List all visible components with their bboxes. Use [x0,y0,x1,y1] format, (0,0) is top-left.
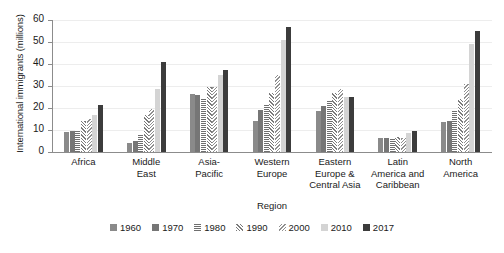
bar-1980 [390,138,395,152]
legend-swatch-icon [194,224,201,231]
legend-item-2017[interactable]: 2017 [363,222,394,233]
bar-group [127,20,166,152]
bar-group [64,20,103,152]
bar-1970 [321,106,326,152]
bar-1990 [207,87,212,152]
bar-1990 [332,93,337,152]
bar-2017 [412,131,417,152]
bar-2000 [338,89,343,152]
bar-1960 [127,143,132,152]
legend-swatch-icon [152,224,159,231]
x-tick-label: Eastern Europe & Central Asia [302,156,368,191]
legend-label: 1960 [120,222,141,233]
legend-swatch-icon [279,224,286,231]
bar-group [378,20,417,152]
bar-1980 [452,111,457,152]
bar-group [316,20,355,152]
y-axis-line [52,20,53,153]
bar-2017 [475,31,480,152]
bar-1990 [81,121,86,152]
bar-2010 [281,40,286,152]
bar-group [190,20,229,152]
x-tick-label: Asia- Pacific [180,156,238,179]
bar-1980 [201,98,206,152]
bar-1960 [441,122,446,152]
y-tick-label: 50 [8,35,44,46]
y-tick-label: 0 [8,145,44,156]
bar-2000 [149,109,154,152]
bar-2017 [286,27,291,152]
y-tick-label: 40 [8,57,44,68]
bar-1970 [70,131,75,152]
bar-1970 [195,95,200,152]
bar-2000 [212,87,217,152]
legend-swatch-icon [110,224,117,231]
bar-group [441,20,480,152]
legend-item-1970[interactable]: 1970 [152,222,183,233]
x-tick-label-group: AfricaMiddle EastAsia- PacificWestern Eu… [52,156,492,200]
legend-label: 1990 [246,222,267,233]
bar-1990 [269,93,274,152]
bar-2010 [92,115,97,152]
legend-label: 1970 [162,222,183,233]
x-tick-label: Latin America and Caribbean [365,156,431,191]
bar-2010 [218,75,223,152]
legend-swatch-icon [236,224,243,231]
bar-2017 [223,70,228,153]
legend-swatch-icon [363,224,370,231]
legend-label: 2000 [289,222,310,233]
legend-item-2010[interactable]: 2010 [321,222,352,233]
bar-1960 [316,111,321,152]
bar-1970 [258,110,263,152]
legend-label: 2017 [373,222,394,233]
bar-1980 [327,101,332,152]
x-axis-title: Region [52,200,492,211]
bar-1960 [253,121,258,152]
y-tick-label: 20 [8,101,44,112]
bar-1970 [133,141,138,152]
y-tick-label: 60 [8,13,44,24]
legend-label: 2010 [331,222,352,233]
y-tick-label: 10 [8,123,44,134]
bar-1990 [458,99,463,152]
bar-1990 [144,115,149,152]
bar-2010 [406,133,411,152]
legend-item-1990[interactable]: 1990 [236,222,267,233]
bar-2000 [275,75,280,152]
bar-1970 [447,121,452,152]
x-tick-label: North America [432,156,490,179]
bar-1990 [395,137,400,152]
x-axis-line [52,152,492,153]
x-tick-label: Western Europe [243,156,301,179]
bar-1960 [378,138,383,152]
bar-1970 [384,138,389,152]
bar-2017 [98,105,103,152]
bar-2010 [469,44,474,152]
bar-1960 [64,132,69,152]
bar-group [253,20,292,152]
legend-item-2000[interactable]: 2000 [279,222,310,233]
plot-area: 0102030405060 [52,20,492,152]
bar-2017 [349,97,354,152]
bar-2000 [464,84,469,152]
bar-1980 [75,130,80,152]
bar-2017 [161,62,166,152]
chart-legend: 1960197019801990200020102017 [0,222,504,233]
bar-1960 [190,94,195,152]
bar-2000 [87,119,92,152]
bar-1980 [264,104,269,152]
x-tick-label: Middle East [117,156,175,179]
x-tick-label: Africa [54,156,112,168]
legend-item-1960[interactable]: 1960 [110,222,141,233]
legend-label: 1980 [204,222,225,233]
bar-2000 [401,138,406,152]
bar-1980 [138,134,143,152]
bar-2010 [344,97,349,152]
bar-chart-figure: International immigrants (millions) 0102… [0,0,504,253]
y-tick-label: 30 [8,79,44,90]
legend-swatch-icon [321,224,328,231]
legend-item-1980[interactable]: 1980 [194,222,225,233]
bar-2010 [155,89,160,152]
